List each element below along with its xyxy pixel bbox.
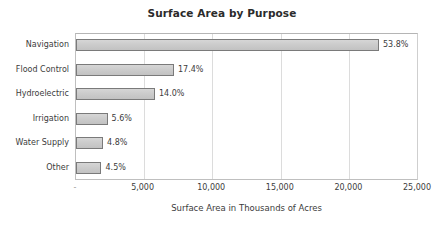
table-row: Flood Control 17.4% (0, 58, 444, 83)
chart-title: Surface Area by Purpose (0, 7, 444, 19)
x-axis-ticks: - 5,000 10,000 15,000 20,000 25,000 (0, 183, 444, 197)
table-row: Irrigation 5.6% (0, 107, 444, 132)
x-tick-0: - (74, 183, 77, 192)
bar-chart: Surface Area by Purpose Navigation 53.8%… (0, 0, 444, 228)
bar-water-supply (76, 137, 103, 149)
category-label-hydroelectric: Hydroelectric (0, 82, 69, 107)
bar-track-irrigation: 5.6% (76, 107, 444, 132)
bar-other (76, 162, 101, 174)
bar-track-water-supply: 4.8% (76, 131, 444, 156)
category-label-other: Other (0, 156, 69, 181)
bar-value-water-supply: 4.8% (107, 137, 127, 149)
table-row: Hydroelectric 14.0% (0, 82, 444, 107)
bar-navigation (76, 39, 379, 51)
x-tick-5000: 5,000 (131, 183, 154, 192)
category-label-irrigation: Irrigation (0, 107, 69, 132)
x-axis-label: Surface Area in Thousands of Acres (75, 203, 418, 213)
bar-value-irrigation: 5.6% (112, 113, 132, 125)
x-tick-15000: 15,000 (266, 183, 294, 192)
bar-value-navigation: 53.8% (383, 39, 408, 51)
table-row: Other 4.5% (0, 156, 444, 181)
x-tick-20000: 20,000 (334, 183, 362, 192)
x-tick-25000: 25,000 (403, 183, 431, 192)
category-label-navigation: Navigation (0, 33, 69, 58)
bar-track-other: 4.5% (76, 156, 444, 181)
bar-track-navigation: 53.8% (76, 33, 444, 58)
bar-track-hydroelectric: 14.0% (76, 82, 444, 107)
category-label-flood-control: Flood Control (0, 58, 69, 83)
table-row: Water Supply 4.8% (0, 131, 444, 156)
bar-flood-control (76, 64, 174, 76)
bar-value-other: 4.5% (106, 162, 126, 174)
bar-track-flood-control: 17.4% (76, 58, 444, 83)
bar-value-flood-control: 17.4% (178, 64, 203, 76)
bar-irrigation (76, 113, 108, 125)
bar-value-hydroelectric: 14.0% (159, 88, 184, 100)
table-row: Navigation 53.8% (0, 33, 444, 58)
bar-rows: Navigation 53.8% Flood Control 17.4% Hyd… (0, 33, 444, 180)
x-tick-10000: 10,000 (197, 183, 225, 192)
category-label-water-supply: Water Supply (0, 131, 69, 156)
bar-hydroelectric (76, 88, 155, 100)
